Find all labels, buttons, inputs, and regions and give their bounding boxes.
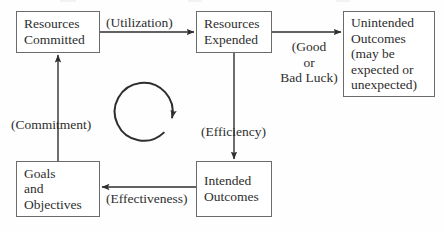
edge-label-efficiency: (Efficiency) (201, 124, 266, 140)
node-unintended-outcomes-label: Unintended Outcomes (may be expected or … (344, 15, 434, 93)
node-intended-outcomes[interactable]: Intended Outcomes (196, 161, 272, 217)
edge-label-good-or-bad-luck: (Good or Bad Luck) (276, 39, 342, 86)
diagram-canvas: Resources Committed Resources Expended U… (0, 0, 444, 232)
node-resources-expended[interactable]: Resources Expended (196, 11, 272, 53)
node-unintended-outcomes[interactable]: Unintended Outcomes (may be expected or … (343, 11, 435, 97)
node-resources-committed-label: Resources Committed (17, 16, 99, 47)
node-goals-and-objectives-label: Goals and Objectives (17, 166, 99, 213)
node-goals-and-objectives[interactable]: Goals and Objectives (16, 161, 100, 217)
edge-label-commitment: (Commitment) (11, 117, 91, 133)
node-resources-committed[interactable]: Resources Committed (16, 11, 100, 53)
edge-label-utilization: (Utilization) (106, 15, 173, 31)
cycle-arrow-icon (115, 83, 173, 141)
node-resources-expended-label: Resources Expended (197, 16, 271, 47)
edge-label-effectiveness: (Effectiveness) (106, 191, 187, 207)
node-intended-outcomes-label: Intended Outcomes (197, 173, 271, 204)
